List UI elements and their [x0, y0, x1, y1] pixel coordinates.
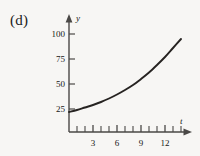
- x-axis-label: t: [180, 116, 183, 126]
- x-tick-label-9: 9: [139, 138, 144, 148]
- y-axis-ticks: [69, 34, 75, 109]
- x-tick-label-12: 12: [161, 138, 170, 148]
- x-axis-tick-labels: 3 6 9 12: [91, 138, 170, 148]
- y-tick-label-100: 100: [52, 29, 66, 39]
- x-axis-major-ticks: [93, 125, 165, 132]
- y-tick-label-75: 75: [56, 54, 66, 64]
- y-tick-label-25: 25: [56, 104, 66, 114]
- x-tick-label-3: 3: [91, 138, 96, 148]
- y-axis-tick-labels: 25 50 75 100: [52, 29, 66, 114]
- y-tick-label-50: 50: [56, 79, 66, 89]
- y-axis-label: y: [75, 13, 80, 23]
- exponential-curve: [69, 39, 181, 112]
- axes-group: [66, 14, 192, 135]
- exponential-growth-chart: 25 50 75 100 3 6 9 12: [0, 0, 200, 156]
- figure-panel: (d) 25 50 75 100: [0, 0, 200, 156]
- y-axis-arrowhead: [66, 14, 73, 23]
- x-axis-arrowhead: [184, 129, 193, 136]
- x-tick-label-6: 6: [115, 138, 120, 148]
